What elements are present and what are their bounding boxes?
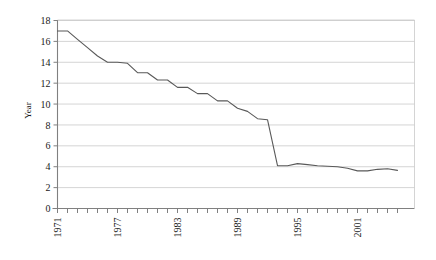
y-tick-label: 6 [46,140,51,151]
y-tick-label: 2 [46,182,51,193]
y-tick-label: 8 [46,120,51,131]
y-tick-label: 14 [41,57,51,68]
x-tick-label: 1977 [112,218,123,238]
y-tick-label: 4 [46,161,51,172]
chart-canvas: 024681012141618 197119771983198919952001… [0,0,436,260]
y-tick-label: 16 [41,36,51,47]
y-tick-label: 10 [41,99,51,110]
x-tick-label: 1989 [232,218,243,238]
x-tick-label: 2001 [352,218,363,238]
y-axis-title: Year [23,102,33,119]
chart-screenshot: 024681012141618 197119771983198919952001… [0,0,436,260]
chart-background [0,0,436,260]
x-tick-label: 1983 [172,218,183,238]
x-tick-label: 1995 [292,218,303,238]
y-tick-label: 0 [46,203,51,214]
line-chart: 024681012141618 197119771983198919952001… [0,0,436,260]
y-tick-label: 18 [41,15,51,26]
x-tick-label: 1971 [52,218,63,238]
y-tick-label: 12 [41,78,51,89]
